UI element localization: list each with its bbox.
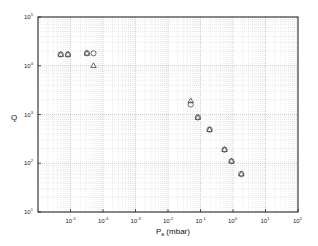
- y-tick-label: 104: [24, 61, 34, 69]
- x-tick-exponent: -2: [170, 216, 174, 221]
- x-tick-label: 10-4: [98, 216, 109, 224]
- grid: [38, 17, 298, 212]
- x-axis-label: Pa (mbar): [156, 227, 190, 237]
- y-tick-label: 105: [24, 12, 34, 20]
- circle-marker: [91, 51, 96, 56]
- x-tick-exponent: 2: [300, 216, 303, 221]
- x-tick-label: 102: [293, 216, 303, 224]
- x-tick-exponent: -4: [105, 216, 109, 221]
- y-tick-exponent: 3: [31, 110, 34, 115]
- scatter-chart: 10-510-410-310-210-1100101102 1011021031…: [0, 0, 318, 246]
- x-tick-label: 10-5: [66, 216, 77, 224]
- x-tick-label: 100: [228, 216, 238, 224]
- x-tick-label: 10-3: [131, 216, 142, 224]
- x-tick-label: 10-1: [196, 216, 207, 224]
- y-tick-exponent: 2: [31, 158, 34, 163]
- x-tick-exponent: -5: [72, 216, 76, 221]
- x-tick-exponent: -3: [137, 216, 141, 221]
- y-tick-label: 101: [24, 207, 34, 215]
- x-tick-exponent: 0: [235, 216, 238, 221]
- y-axis-label: Q: [11, 113, 17, 122]
- x-axis-ticks: 10-510-410-310-210-1100101102: [66, 209, 303, 224]
- x-tick-label: 10-2: [163, 216, 174, 224]
- y-tick-label: 102: [24, 158, 34, 166]
- y-tick-exponent: 4: [31, 61, 34, 66]
- x-tick-label: 101: [261, 216, 271, 224]
- y-tick-exponent: 5: [31, 12, 34, 17]
- y-tick-exponent: 1: [31, 207, 34, 212]
- x-tick-exponent: -1: [202, 216, 206, 221]
- x-axis-label-unit: (mbar): [164, 227, 190, 236]
- x-tick-exponent: 1: [267, 216, 270, 221]
- triangle-marker: [91, 63, 96, 68]
- y-tick-label: 103: [24, 110, 34, 118]
